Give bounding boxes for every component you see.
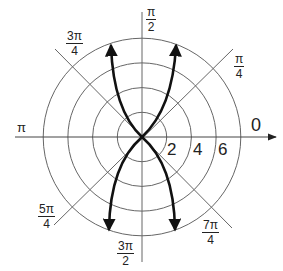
label-3pi-over-2-den: 2 [122, 254, 129, 267]
label-pi-over-4: π 4 [234, 53, 244, 80]
label-7pi-over-4-num: 7π [202, 219, 219, 233]
label-3pi-over-2: 3π 2 [117, 240, 134, 267]
label-pi-over-2-num: π [146, 6, 156, 20]
label-zero: 0 [251, 116, 261, 134]
curve-branch-lower-left [109, 137, 142, 229]
label-pi-over-2-den: 2 [148, 20, 155, 33]
radial-label-6: 6 [218, 141, 227, 158]
curve-branch-upper-left [111, 46, 142, 137]
label-5pi-over-4: 5π 4 [38, 203, 55, 230]
label-3pi-over-4-den: 4 [71, 44, 78, 57]
label-7pi-over-4: 7π 4 [202, 219, 219, 246]
radial-label-2: 2 [167, 141, 176, 158]
radial-label-4: 4 [193, 141, 202, 158]
label-pi-over-2: π 2 [146, 6, 156, 33]
label-3pi-over-4-num: 3π [66, 30, 83, 44]
curve-branch-upper-right [142, 46, 176, 137]
label-3pi-over-4: 3π 4 [66, 30, 83, 57]
label-pi-over-4-num: π [234, 53, 244, 67]
label-7pi-over-4-den: 4 [207, 233, 214, 246]
label-3pi-over-2-num: 3π [117, 240, 134, 254]
label-5pi-over-4-den: 4 [43, 217, 50, 230]
label-5pi-over-4-num: 5π [38, 203, 55, 217]
label-pi: π [17, 121, 26, 134]
label-pi-over-4-den: 4 [236, 67, 243, 80]
